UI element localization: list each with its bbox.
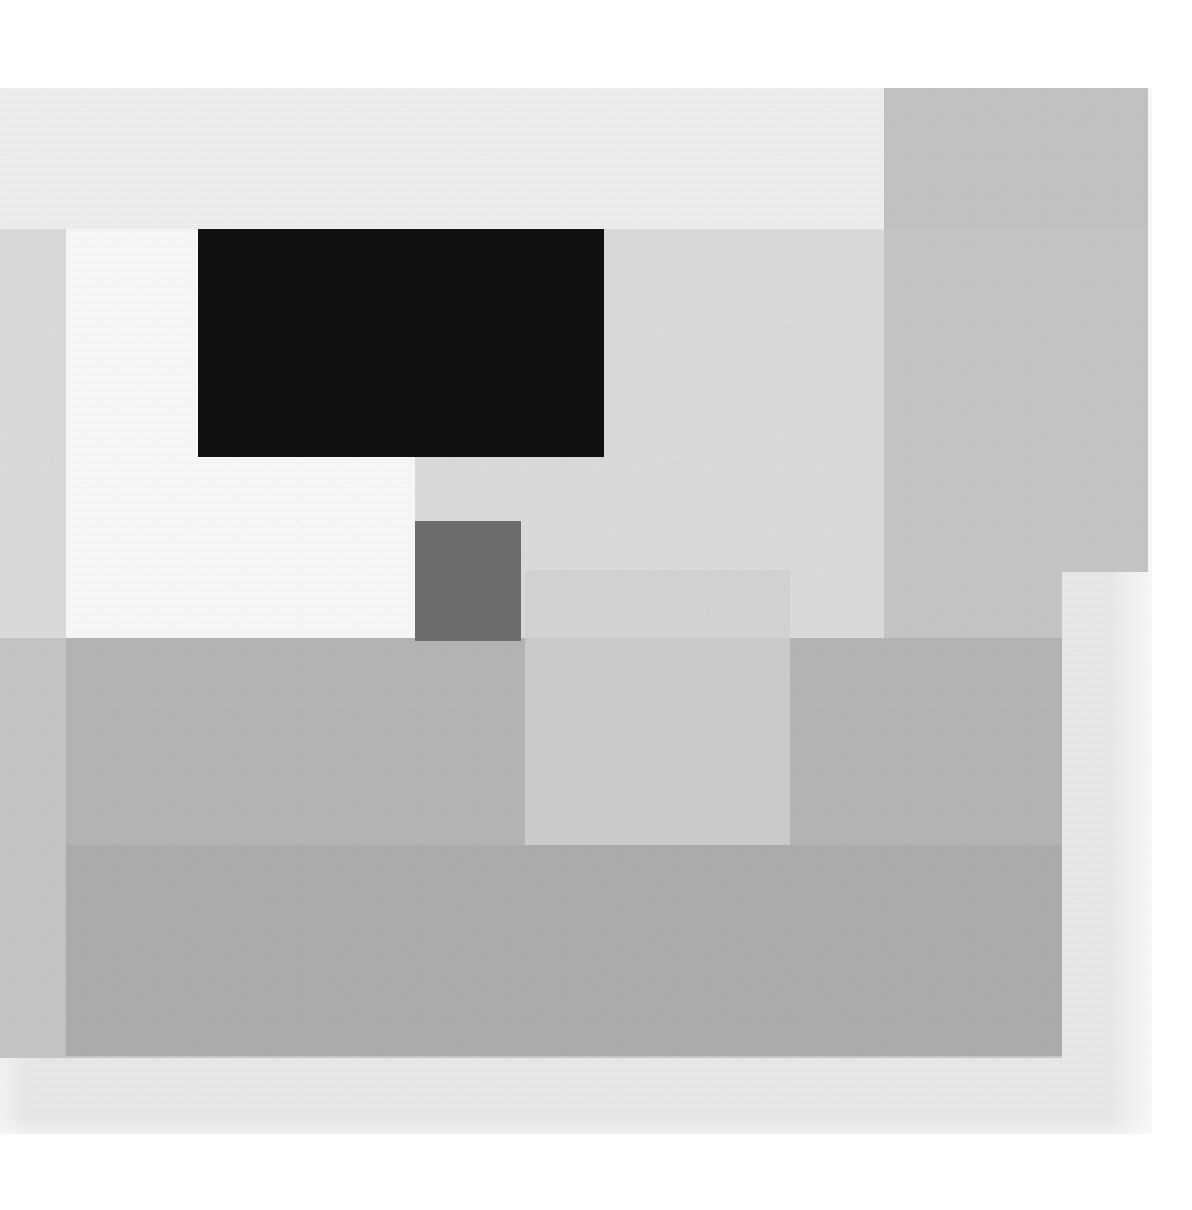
artwork-canvas-root: Untitled Geometric Composition xyxy=(0,0,1192,1210)
top-light-band xyxy=(0,88,884,229)
black-rectangle xyxy=(198,229,604,457)
translucent-square xyxy=(525,570,790,845)
dark-grey-square xyxy=(415,521,521,641)
artwork-title: Untitled Geometric Composition xyxy=(0,1198,1192,1210)
lower-grey-band xyxy=(66,845,1062,1056)
